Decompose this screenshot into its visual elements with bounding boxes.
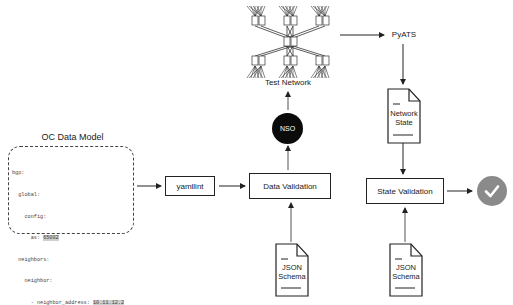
yaml-line: neighbor: <box>12 278 124 285</box>
yamllint-label: yamllint <box>176 182 203 191</box>
nso-node: NSO <box>272 113 303 144</box>
pyats-label: PyATS <box>388 30 420 39</box>
yamllint-box: yamllint <box>165 176 215 196</box>
success-node <box>477 176 507 206</box>
json-schema-label: JSON Schema <box>273 263 311 281</box>
network-state-label: Network State <box>385 109 423 127</box>
yaml-line: config: <box>12 214 124 221</box>
yaml-code-block: bgp: global: config: as: 65002 neighbors… <box>12 156 124 305</box>
data-validation-box: Data Validation <box>249 173 331 199</box>
highlighted-value: 10.11.12.2 <box>93 300 124 305</box>
oc-data-model-title: OC Data Model <box>20 132 125 142</box>
test-network-label: Test Network <box>248 78 328 87</box>
state-validation-label: State Validation <box>377 187 432 196</box>
data-validation-label: Data Validation <box>263 182 317 191</box>
yaml-line: neighbors: <box>12 257 124 264</box>
highlighted-value: 65002 <box>43 235 59 241</box>
yaml-line: global: <box>12 192 124 199</box>
json-schema-label: JSON Schema <box>387 263 425 281</box>
checkmark-icon <box>483 182 501 200</box>
yaml-line: as: 65002 <box>12 235 124 242</box>
yaml-line: - neighbor_address: 10.11.12.2 <box>12 300 124 305</box>
yaml-line: bgp: <box>12 170 124 177</box>
nso-label: NSO <box>280 125 295 132</box>
state-validation-box: State Validation <box>366 178 444 204</box>
test-network-topology-icon <box>243 4 337 80</box>
